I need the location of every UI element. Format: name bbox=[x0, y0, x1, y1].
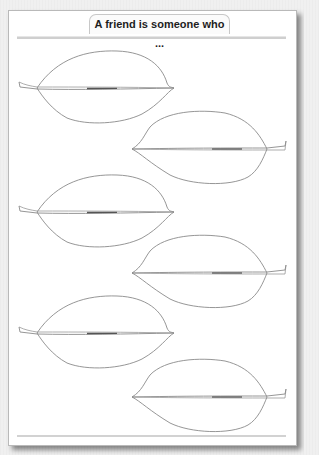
footer-rule bbox=[17, 435, 286, 437]
leaf-6 bbox=[132, 359, 286, 431]
leaves-canvas bbox=[9, 11, 296, 445]
leaf-2 bbox=[132, 111, 286, 183]
worksheet-title-tab: A friend is someone who ... bbox=[89, 14, 230, 34]
worksheet-page: A friend is someone who ... bbox=[8, 10, 297, 446]
leaf-3 bbox=[19, 175, 174, 247]
leaf-4 bbox=[132, 235, 286, 307]
leaf-5 bbox=[19, 296, 174, 368]
leaf-1 bbox=[19, 51, 174, 123]
